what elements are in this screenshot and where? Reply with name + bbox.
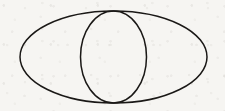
inner-ellipse [81, 11, 147, 103]
outer-ellipse [20, 11, 207, 103]
ellipse-figure: Two concentric tangent ellipses A wide h… [0, 0, 225, 111]
figure-canvas: Two concentric tangent ellipses A wide h… [0, 0, 225, 111]
